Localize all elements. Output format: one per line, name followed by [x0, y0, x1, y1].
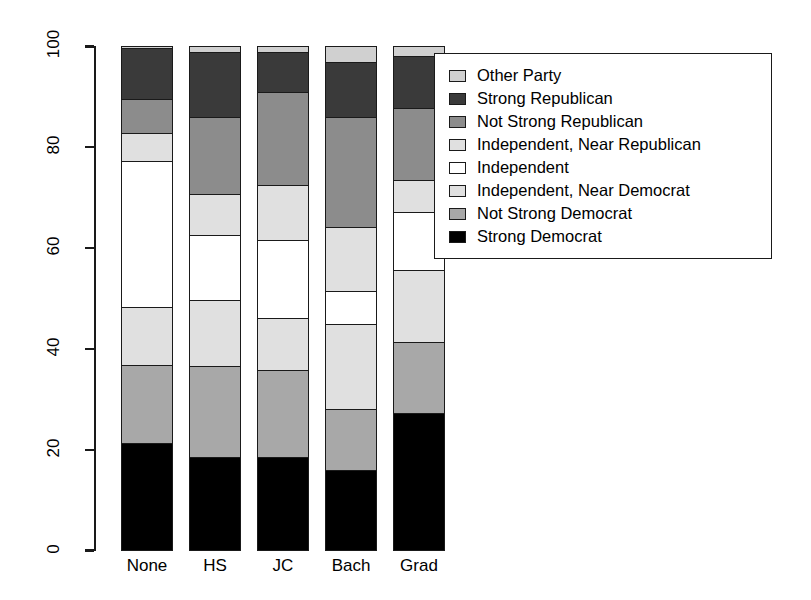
- legend-item[interactable]: Independent, Near Republican: [445, 133, 759, 156]
- legend-item[interactable]: Strong Republican: [445, 87, 759, 110]
- bar-segment[interactable]: [394, 271, 444, 343]
- legend-item[interactable]: Not Strong Republican: [445, 110, 759, 133]
- bar-segment[interactable]: [258, 458, 308, 550]
- bar-segment[interactable]: [190, 301, 240, 367]
- bar-segment[interactable]: [122, 308, 172, 366]
- bar-segment[interactable]: [258, 319, 308, 371]
- legend-swatch-icon: [449, 116, 466, 128]
- bar-segment[interactable]: [122, 366, 172, 443]
- legend: Other PartyStrong RepublicanNot Strong R…: [434, 53, 772, 259]
- bar-segment[interactable]: [258, 241, 308, 319]
- bar-segment[interactable]: [258, 186, 308, 241]
- x-axis-label-grad: Grad: [379, 556, 459, 576]
- legend-label: Not Strong Republican: [477, 113, 643, 130]
- legend-label: Strong Republican: [477, 90, 613, 107]
- legend-swatch-icon: [449, 231, 466, 243]
- legend-swatch-icon: [449, 70, 466, 82]
- legend-swatch-icon: [449, 139, 466, 151]
- bar-segment[interactable]: [190, 236, 240, 302]
- bar-segment[interactable]: [190, 458, 240, 550]
- bar-segment[interactable]: [326, 228, 376, 292]
- bar-segment[interactable]: [326, 471, 376, 550]
- bar-none[interactable]: [121, 46, 173, 551]
- bar-segment[interactable]: [326, 410, 376, 471]
- legend-swatch-icon: [449, 208, 466, 220]
- bar-segment[interactable]: [122, 162, 172, 308]
- bar-segment[interactable]: [190, 53, 240, 118]
- bar-segment[interactable]: [122, 134, 172, 162]
- legend-label: Independent, Near Democrat: [477, 182, 690, 199]
- legend-item[interactable]: Not Strong Democrat: [445, 202, 759, 225]
- bar-segment[interactable]: [394, 414, 444, 550]
- legend-item[interactable]: Independent: [445, 156, 759, 179]
- bar-segment[interactable]: [190, 367, 240, 457]
- bar-segment[interactable]: [122, 444, 172, 550]
- bar-segment[interactable]: [258, 93, 308, 186]
- legend-swatch-icon: [449, 162, 466, 174]
- legend-label: Strong Democrat: [477, 228, 602, 245]
- legend-item[interactable]: Independent, Near Democrat: [445, 179, 759, 202]
- legend-label: Independent: [477, 159, 569, 176]
- bar-segment[interactable]: [326, 63, 376, 118]
- bar-bach[interactable]: [325, 46, 377, 551]
- legend-item[interactable]: Strong Democrat: [445, 225, 759, 248]
- bar-hs[interactable]: [189, 46, 241, 551]
- legend-label: Other Party: [477, 67, 561, 84]
- bar-segment[interactable]: [394, 343, 444, 415]
- bar-segment[interactable]: [258, 53, 308, 92]
- legend-label: Independent, Near Republican: [477, 136, 701, 153]
- bar-segment[interactable]: [326, 292, 376, 325]
- bar-segment[interactable]: [258, 371, 308, 457]
- legend-label: Not Strong Democrat: [477, 205, 632, 222]
- bar-segment[interactable]: [190, 118, 240, 195]
- legend-item[interactable]: Other Party: [445, 64, 759, 87]
- bar-segment[interactable]: [326, 118, 376, 228]
- stacked-bar-chart: 020406080100 NoneHSJCBachGrad Other Part…: [0, 0, 811, 600]
- bar-segment[interactable]: [326, 325, 376, 409]
- bar-segment[interactable]: [122, 49, 172, 99]
- bar-jc[interactable]: [257, 46, 309, 551]
- bar-segment[interactable]: [190, 195, 240, 235]
- bar-segment[interactable]: [326, 47, 376, 63]
- bar-segment[interactable]: [122, 100, 172, 134]
- legend-swatch-icon: [449, 185, 466, 197]
- legend-swatch-icon: [449, 93, 466, 105]
